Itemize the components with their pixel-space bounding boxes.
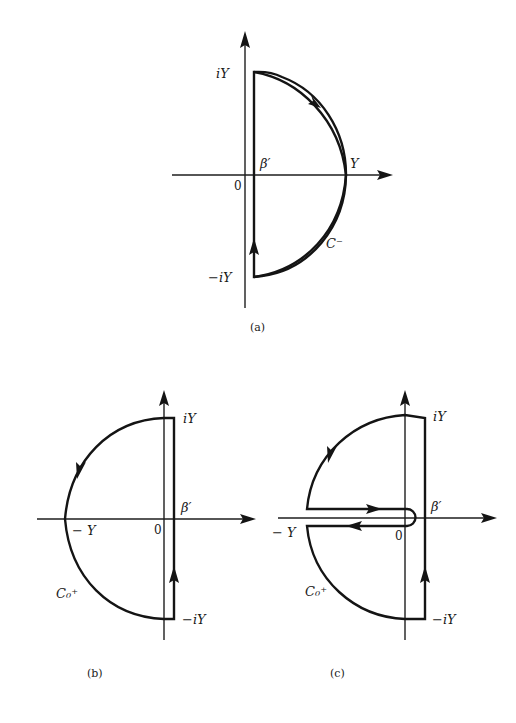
label-iY: iY xyxy=(216,66,230,81)
label-contour: C⁻ xyxy=(326,236,343,251)
label-Y: Y xyxy=(350,156,360,171)
label-beta-prime: β′ xyxy=(259,156,271,171)
label-origin: 0 xyxy=(154,523,162,537)
contour-figures: iY −iY 0 β′ Y C⁻ (a) iY −iY 0 β′ − Y C₀⁺… xyxy=(0,0,516,723)
label-minus-Y: − Y xyxy=(72,523,97,538)
label-beta-prime: β′ xyxy=(430,499,442,514)
label-iY: iY xyxy=(433,409,447,424)
caption-c: (c) xyxy=(330,667,345,680)
label-minus-iY: −iY xyxy=(208,270,233,285)
label-iY: iY xyxy=(183,411,197,426)
label-minus-Y: − Y xyxy=(272,525,297,540)
caption-a: (a) xyxy=(250,321,265,334)
label-contour: C₀⁺ xyxy=(56,586,78,601)
diagram-c: iY −iY 0 β′ − Y C₀⁺ (c) xyxy=(272,390,497,680)
diagram-a: iY −iY 0 β′ Y C⁻ (a) xyxy=(172,31,393,334)
label-contour: C₀⁺ xyxy=(305,584,327,599)
label-origin: 0 xyxy=(395,529,403,543)
label-beta-prime: β′ xyxy=(180,500,192,515)
caption-b: (b) xyxy=(87,667,103,680)
label-origin: 0 xyxy=(234,179,242,193)
label-minus-iY: −iY xyxy=(432,612,457,627)
diagram-b: iY −iY 0 β′ − Y C₀⁺ (b) xyxy=(37,390,256,680)
label-minus-iY: −iY xyxy=(182,612,207,627)
